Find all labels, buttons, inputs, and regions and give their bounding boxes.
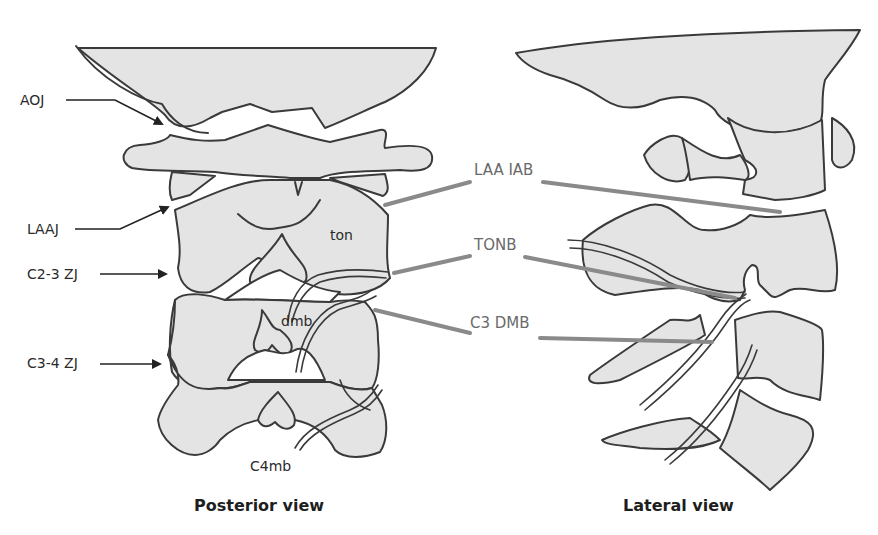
label-aoj: AOJ	[20, 93, 44, 107]
label-c4mb: C4mb	[250, 459, 291, 473]
label-c3-dmb: C3 DMB	[470, 316, 530, 331]
c4-lateral	[720, 390, 813, 490]
occiput-lateral	[516, 30, 860, 133]
laa-iab-needle-posterior	[385, 182, 470, 205]
caption-lateral-view: Lateral view	[623, 496, 734, 515]
label-tonb: TONB	[474, 238, 516, 253]
aoj-arrow	[66, 100, 162, 124]
caption-posterior-view: Posterior view	[194, 496, 324, 515]
label-dmb: dmb	[281, 314, 312, 328]
label-ton: ton	[330, 228, 353, 242]
atlas-c1	[124, 125, 433, 178]
label-c2-3-zj: C2-3 ZJ	[27, 267, 78, 281]
occiput-bone	[78, 48, 436, 128]
label-laa-iab: LAA IAB	[474, 163, 533, 178]
label-laaj: LAAJ	[27, 222, 59, 236]
posterior-arrows	[66, 100, 168, 364]
tonb-needle-posterior	[394, 256, 470, 273]
c3-dmb-needle-posterior	[375, 310, 470, 333]
label-c3-4-zj: C3-4 ZJ	[27, 356, 78, 370]
lateral-view-illustration	[516, 30, 860, 490]
axis-lateral	[582, 204, 836, 301]
laaj-arrow	[75, 207, 168, 229]
diagram-canvas	[0, 0, 878, 535]
